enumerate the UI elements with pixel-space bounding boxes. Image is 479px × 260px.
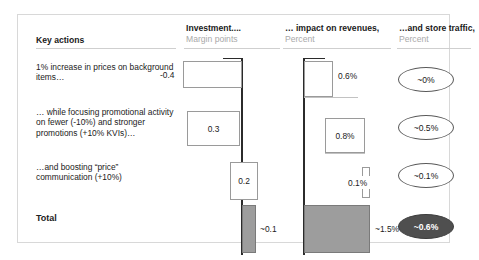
row-label-2: …and boosting “price” communication (+10… — [36, 162, 176, 183]
column-header-investment-title: Investment.... — [186, 23, 241, 33]
chart-header: Key actions Investment.... Margin points… — [18, 15, 449, 51]
column-header-revenues: … impact on revenues, Percent — [285, 23, 390, 45]
revenues-bar-2-lower — [362, 189, 370, 198]
investment-bar-2: 0.2 — [230, 162, 258, 200]
column-header-revenues-unit: Percent — [285, 34, 315, 44]
investment-bar-1: 0.3 — [187, 111, 240, 146]
revenues-leader-1 — [325, 153, 365, 154]
row-label-total: Total — [36, 213, 176, 223]
traffic-value-total: ~0.6% — [414, 222, 439, 232]
column-header-key-actions: Key actions — [36, 35, 84, 46]
header-rule-revenues — [283, 48, 391, 49]
traffic-value-1: ~0.5% — [414, 123, 439, 133]
revenues-bar-2-upper — [362, 167, 370, 176]
chart-card: Key actions Investment.... Margin points… — [17, 14, 450, 243]
column-header-investment: Investment.... Margin points — [186, 23, 286, 45]
column-header-investment-unit: Margin points — [186, 34, 238, 44]
revenues-value-2: 0.1% — [348, 178, 367, 188]
header-rule-investment — [184, 48, 280, 49]
revenues-bar-0 — [304, 61, 333, 97]
investment-bar-0 — [183, 61, 242, 88]
column-header-traffic-title: …and store traffic, — [399, 23, 475, 33]
row-label-0: 1% increase in prices on background item… — [36, 62, 176, 83]
header-rule-key-actions — [36, 48, 176, 49]
column-header-traffic-unit: Percent — [399, 34, 429, 44]
revenues-leader-0 — [304, 97, 358, 98]
investment-bar-total — [242, 205, 256, 253]
revenues-axis-cap — [303, 58, 325, 59]
revenues-bar-total — [304, 205, 370, 253]
column-header-revenues-title: … impact on revenues, — [285, 23, 379, 33]
investment-value-total: ~0.1 — [260, 224, 277, 234]
investment-value-0: -0.4 — [160, 70, 174, 80]
revenues-value-0: 0.6% — [338, 71, 357, 81]
traffic-callout-1: ~0.5% — [398, 115, 454, 140]
investment-value-1: 0.3 — [188, 124, 239, 134]
traffic-callout-2: ~0.1% — [398, 163, 454, 188]
revenues-bar-1: 0.8% — [325, 118, 365, 153]
header-rule-traffic — [397, 48, 471, 49]
investment-axis-cap — [223, 58, 243, 59]
traffic-callout-total: ~0.6% — [398, 214, 454, 239]
traffic-value-2: ~0.1% — [414, 171, 439, 181]
row-label-1: … while focusing promotional activity on… — [36, 107, 176, 138]
traffic-value-0: ~0% — [417, 75, 434, 85]
investment-value-2: 0.2 — [231, 176, 257, 186]
revenues-value-1: 0.8% — [326, 131, 364, 141]
revenues-value-total: ~1.5% — [375, 224, 399, 234]
traffic-callout-0: ~0% — [398, 67, 454, 92]
column-header-traffic: …and store traffic, Percent — [399, 23, 479, 45]
